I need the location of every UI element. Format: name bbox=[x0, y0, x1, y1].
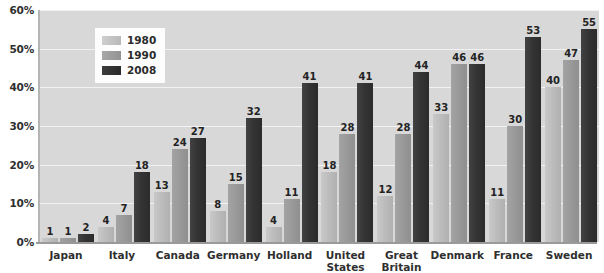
bar-value-label: 46 bbox=[452, 53, 466, 63]
bar-container: 44 bbox=[413, 10, 429, 242]
y-axis-tick-label: 60% bbox=[0, 4, 34, 16]
bar-container: 30 bbox=[507, 10, 523, 242]
bar[interactable]: 24 bbox=[172, 149, 188, 242]
bar-container: 47 bbox=[563, 10, 579, 242]
bar-value-label: 18 bbox=[323, 161, 337, 171]
bar[interactable]: 28 bbox=[395, 134, 411, 242]
bar[interactable]: 41 bbox=[357, 83, 373, 242]
bar-value-label: 4 bbox=[270, 216, 277, 226]
bar-value-label: 11 bbox=[490, 188, 504, 198]
bar-group: 182841 bbox=[320, 10, 376, 242]
bar-container: 1 bbox=[60, 10, 76, 242]
bar[interactable]: 11 bbox=[284, 199, 300, 242]
bar-value-label: 40 bbox=[546, 76, 560, 86]
bar-value-label: 27 bbox=[191, 127, 205, 137]
bar-group: 112 bbox=[40, 10, 96, 242]
bar[interactable]: 4 bbox=[266, 227, 282, 242]
bar[interactable]: 7 bbox=[116, 215, 132, 242]
bar[interactable]: 47 bbox=[563, 60, 579, 242]
bar-value-label: 18 bbox=[135, 161, 149, 171]
bar-container: 11 bbox=[284, 10, 300, 242]
y-axis-tick-label: 10% bbox=[0, 197, 34, 209]
bar-container: 12 bbox=[377, 10, 393, 242]
bar-container: 28 bbox=[395, 10, 411, 242]
bar[interactable]: 12 bbox=[377, 196, 393, 242]
legend-swatch-icon bbox=[102, 36, 121, 45]
legend-item[interactable]: 1990 bbox=[102, 48, 156, 63]
bar-value-label: 41 bbox=[359, 72, 373, 82]
bar-value-label: 15 bbox=[229, 173, 243, 183]
x-axis-category-label: Sweden bbox=[541, 246, 597, 273]
bar[interactable]: 28 bbox=[339, 134, 355, 242]
bar[interactable]: 11 bbox=[489, 199, 505, 242]
bar[interactable]: 44 bbox=[413, 72, 429, 242]
bar-group: 41141 bbox=[264, 10, 320, 242]
bar-value-label: 47 bbox=[564, 49, 578, 59]
bar[interactable]: 55 bbox=[581, 29, 597, 242]
legend-swatch-icon bbox=[102, 66, 121, 75]
y-axis-tick-label: 30% bbox=[0, 120, 34, 132]
bar-group: 81532 bbox=[208, 10, 264, 242]
bar[interactable]: 30 bbox=[507, 126, 523, 242]
bar[interactable]: 46 bbox=[451, 64, 467, 242]
x-axis-category-label: France bbox=[485, 246, 541, 273]
x-axis-category-label: Denmark bbox=[429, 246, 485, 273]
bar-value-label: 12 bbox=[378, 185, 392, 195]
bar-container: 4 bbox=[266, 10, 282, 242]
x-axis-category-label: Canada bbox=[150, 246, 206, 273]
bar-container: 40 bbox=[545, 10, 561, 242]
bar-container: 8 bbox=[210, 10, 226, 242]
legend-item-label: 1980 bbox=[127, 35, 156, 46]
bar[interactable]: 27 bbox=[190, 138, 206, 242]
bar-container: 1 bbox=[42, 10, 58, 242]
bar-value-label: 53 bbox=[526, 26, 540, 36]
bar-container: 28 bbox=[339, 10, 355, 242]
bar[interactable]: 13 bbox=[154, 192, 170, 242]
bar[interactable]: 8 bbox=[210, 211, 226, 242]
bar-group: 122844 bbox=[375, 10, 431, 242]
bar-container: 15 bbox=[228, 10, 244, 242]
y-axis: 0%10%20%30%40%50%60% bbox=[0, 0, 34, 273]
bar-container: 18 bbox=[321, 10, 337, 242]
bar[interactable]: 46 bbox=[469, 64, 485, 242]
legend-item-label: 1990 bbox=[127, 50, 156, 61]
bar[interactable]: 40 bbox=[545, 87, 561, 242]
y-axis-tick-label: 40% bbox=[0, 81, 34, 93]
bar-container: 33 bbox=[433, 10, 449, 242]
bar[interactable]: 18 bbox=[321, 172, 337, 242]
bar-value-label: 32 bbox=[247, 107, 261, 117]
bar-value-label: 1 bbox=[46, 227, 53, 237]
bar-container: 41 bbox=[302, 10, 318, 242]
bar[interactable]: 2 bbox=[78, 234, 94, 242]
bar[interactable]: 15 bbox=[228, 184, 244, 242]
bar-chart: 0%10%20%30%40%50%60% 1124718132427815324… bbox=[0, 0, 604, 273]
bar-container: 46 bbox=[451, 10, 467, 242]
y-axis-tick-label: 0% bbox=[0, 236, 34, 248]
bar[interactable]: 18 bbox=[134, 172, 150, 242]
bar[interactable]: 41 bbox=[302, 83, 318, 242]
bar-value-label: 7 bbox=[120, 204, 127, 214]
bar-value-label: 44 bbox=[414, 61, 428, 71]
legend-swatch-icon bbox=[102, 51, 121, 60]
legend: 198019902008 bbox=[95, 28, 165, 83]
x-axis-category-label: Italy bbox=[94, 246, 150, 273]
x-axis: JapanItalyCanadaGermanyHollandUnited Sta… bbox=[38, 246, 597, 273]
bar-value-label: 55 bbox=[582, 18, 596, 28]
bar[interactable]: 4 bbox=[98, 227, 114, 242]
bar-container: 2 bbox=[78, 10, 94, 242]
legend-item[interactable]: 1980 bbox=[102, 33, 156, 48]
bar[interactable]: 53 bbox=[525, 37, 541, 242]
legend-item[interactable]: 2008 bbox=[102, 63, 156, 78]
bar[interactable]: 32 bbox=[246, 118, 262, 242]
bar-value-label: 33 bbox=[434, 103, 448, 113]
bar[interactable]: 33 bbox=[433, 114, 449, 242]
x-axis-category-label: Holland bbox=[262, 246, 318, 273]
bar-value-label: 4 bbox=[102, 216, 109, 226]
bar-value-label: 11 bbox=[285, 188, 299, 198]
bar-group: 334646 bbox=[431, 10, 487, 242]
bar-value-label: 30 bbox=[508, 115, 522, 125]
plot-area: 1124718132427815324114118284112284433464… bbox=[38, 10, 599, 242]
bar-container: 41 bbox=[357, 10, 373, 242]
bar-value-label: 1 bbox=[64, 227, 71, 237]
x-axis-category-label: Great Britain bbox=[373, 246, 429, 273]
